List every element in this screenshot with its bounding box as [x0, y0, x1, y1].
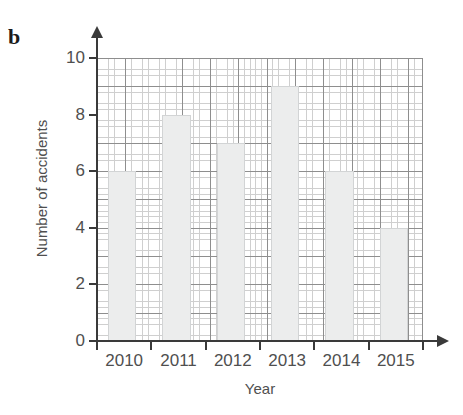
x-axis-arrow-icon [437, 335, 449, 347]
bar-2011 [162, 115, 190, 341]
bar-2012 [217, 143, 245, 341]
y-tick-label-10: 10 [45, 49, 85, 66]
x-tick-3 [259, 341, 261, 350]
x-tick-2 [205, 341, 207, 350]
part-label: b [8, 26, 20, 48]
bar-2015 [380, 228, 408, 341]
y-tick-label-2: 2 [45, 275, 85, 292]
y-axis-arrow-icon [91, 26, 103, 38]
y-axis-line [96, 36, 98, 343]
y-tick-2 [89, 283, 98, 285]
x-tick-1 [150, 341, 152, 350]
bar-2010 [108, 171, 136, 341]
y-tick-label-0: 0 [45, 332, 85, 349]
bar-series [97, 58, 423, 341]
y-tick-4 [89, 227, 98, 229]
y-tick-8 [89, 114, 98, 116]
x-axis-line [97, 340, 439, 342]
y-tick-10 [89, 57, 98, 59]
x-tick-label-2015: 2015 [364, 352, 428, 369]
y-tick-label-4: 4 [45, 219, 85, 236]
y-tick-6 [89, 170, 98, 172]
plot-area [97, 58, 423, 341]
y-axis-title: Number of accidents [33, 89, 50, 289]
x-tick-5 [368, 341, 370, 350]
y-tick-label-8: 8 [45, 106, 85, 123]
bar-chart-figure: b 0246810 201020112012201320142015 Numbe… [0, 0, 463, 415]
x-tick-0 [96, 341, 98, 350]
y-tick-label-6: 6 [45, 162, 85, 179]
x-tick-6 [422, 341, 424, 350]
x-tick-4 [313, 341, 315, 350]
bar-2013 [271, 86, 299, 341]
bar-2014 [325, 171, 353, 341]
x-axis-title: Year [97, 380, 423, 397]
